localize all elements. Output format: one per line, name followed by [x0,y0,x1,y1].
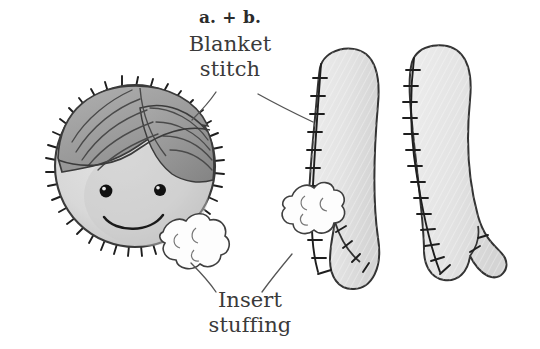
left-eye [100,185,113,198]
leader-blanket-to-limb [258,94,313,122]
leader-blanket-to-head [192,92,216,120]
doll-head [46,76,229,269]
right-eye [154,184,166,196]
leader-insert-to-limb-puff [262,254,292,292]
illustration-canvas: a. + b. Blanket stitch Insert stuffing [0,0,540,349]
limb-right-texture [410,45,507,280]
insert-stuffing-label: Insert stuffing [170,288,330,338]
head-stuffing-puff [160,214,229,269]
doll-limb-right [403,45,506,280]
step-title: a. + b. [150,7,310,27]
blanket-stitch-label: Blanket stitch [150,32,310,82]
doll-limb-left [282,49,379,290]
